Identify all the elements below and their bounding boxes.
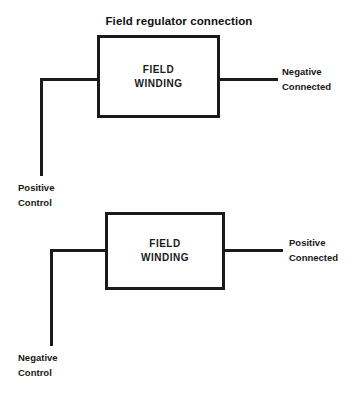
- field-winding-block-top-line1: FIELD: [143, 63, 174, 77]
- terminal-label-top-right: Negative Connected: [282, 64, 331, 94]
- wire-bottom-left-horizontal: [50, 249, 106, 252]
- field-winding-block-top-line2: WINDING: [135, 77, 183, 91]
- wire-top-right-horizontal: [218, 78, 278, 81]
- field-winding-block-bottom: FIELD WINDING: [105, 212, 225, 290]
- terminal-label-bottom-left-primary: Negative: [18, 350, 58, 365]
- terminal-label-top-left: Positive Control: [18, 180, 54, 210]
- field-winding-block-top: FIELD WINDING: [97, 35, 220, 118]
- terminal-label-top-right-primary: Negative: [282, 64, 331, 79]
- wire-top-left-horizontal: [40, 78, 98, 81]
- terminal-label-bottom-right-secondary: Connected: [289, 250, 338, 265]
- field-regulator-diagram: Field regulator connection FIELD WINDING…: [0, 0, 358, 400]
- page-title: Field regulator connection: [0, 15, 358, 28]
- wire-bottom-left-vertical: [50, 249, 53, 346]
- terminal-label-bottom-left-secondary: Control: [18, 365, 58, 380]
- terminal-label-bottom-right: Positive Connected: [289, 235, 338, 265]
- field-winding-block-bottom-line1: FIELD: [149, 237, 180, 251]
- terminal-label-top-right-secondary: Connected: [282, 79, 331, 94]
- wire-bottom-right-horizontal: [223, 249, 283, 252]
- terminal-label-bottom-right-primary: Positive: [289, 235, 338, 250]
- wire-top-left-vertical: [40, 78, 43, 176]
- field-winding-block-bottom-line2: WINDING: [141, 251, 189, 265]
- terminal-label-bottom-left: Negative Control: [18, 350, 58, 380]
- terminal-label-top-left-primary: Positive: [18, 180, 54, 195]
- terminal-label-top-left-secondary: Control: [18, 195, 54, 210]
